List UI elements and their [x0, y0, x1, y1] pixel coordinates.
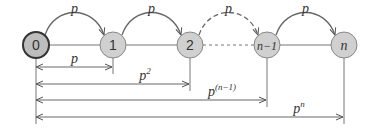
state-node-2: 2 [177, 32, 203, 58]
transition-prob-label: p [70, 1, 78, 16]
state-label: 2 [186, 37, 194, 53]
transition-prob-label: p [147, 1, 155, 16]
state-label: 0 [32, 37, 40, 53]
span-label: p2 [138, 66, 151, 83]
state-node-n-1: n−1 [254, 32, 280, 58]
markov-chain-diagram: pppppp2p(n−1)pn 012n−1n [0, 0, 377, 131]
transition-prob-label: p [301, 1, 309, 16]
state-node-1: 1 [100, 32, 126, 58]
state-node-n: n [331, 32, 357, 58]
state-label: n [341, 38, 348, 53]
span-label: pn [292, 99, 305, 116]
state-label: 1 [109, 37, 117, 53]
state-label: n−1 [257, 39, 277, 53]
diagram-svg: pppppp2p(n−1)pn 012n−1n [0, 0, 377, 131]
transition-prob-label: p [224, 1, 232, 16]
span-label: p(n−1) [207, 82, 236, 99]
span-label: p [70, 51, 78, 66]
state-node-0: 0 [23, 32, 49, 58]
